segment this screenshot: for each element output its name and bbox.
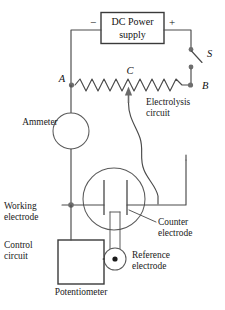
rheostat-terminal-b-node[interactable] [188, 82, 193, 87]
positive-terminal-label: + [169, 16, 175, 28]
rheostat-zigzag [75, 79, 188, 91]
working-electrode-label-line2: electrode [4, 212, 38, 222]
reference-electrode-label-line2: electrode [132, 261, 166, 271]
dc-power-supply-label-line2: supply [119, 29, 146, 40]
electrolysis-circuit-label-line1: Electrolysis [146, 97, 191, 107]
reference-electrode-dot [112, 256, 117, 261]
electrolysis-cell-vessel [83, 168, 145, 230]
reference-electrode-label-line1: Reference [132, 250, 170, 260]
wire-supply-positive-to-switch [164, 30, 191, 48]
working-electrode-label-line1: Working [4, 201, 37, 211]
switch-label: S [207, 48, 213, 59]
ammeter-symbol [53, 113, 89, 149]
electrolysis-circuit-label-line2: circuit [146, 108, 170, 118]
dc-power-supply-label-line1: DC Power [112, 16, 155, 27]
ammeter-label: Ammeter [22, 117, 58, 127]
wire-supply-negative-to-a [71, 30, 101, 85]
potentiometer-label: Potentiometer [55, 287, 108, 297]
negative-terminal-label: − [90, 16, 96, 28]
rheostat-tap-arrowhead [125, 87, 132, 96]
circuit-diagram: DC Power supply − + S A B C [0, 0, 225, 310]
counter-electrode-label-line1: Counter [158, 217, 189, 227]
rheostat-terminal-b-label: B [202, 80, 209, 91]
switch-blade[interactable] [192, 51, 203, 63]
control-circuit-label-line1: Control [4, 240, 33, 250]
rheostat-tap-c-label: C [126, 65, 134, 76]
circuit-svg: DC Power supply − + S A B C [0, 0, 225, 310]
counter-electrode-label-line2: electrode [158, 228, 192, 238]
rheostat-terminal-a-label: A [58, 73, 66, 84]
control-circuit-label-line2: circuit [4, 251, 28, 261]
potentiometer-box[interactable] [58, 240, 104, 284]
